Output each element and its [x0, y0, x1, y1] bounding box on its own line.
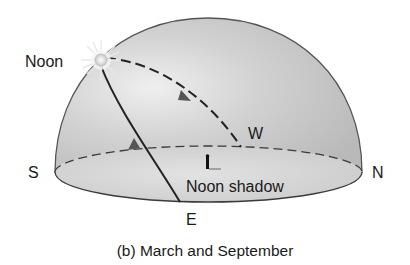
sun-icon: [81, 40, 121, 80]
noon-shadow-label: Noon shadow: [186, 178, 284, 195]
sky-dome-diagram: Noon W S N E Noon shadow (b) March and S…: [0, 0, 410, 265]
north-label: N: [372, 164, 384, 181]
east-label: E: [186, 211, 197, 228]
west-label: W: [248, 125, 264, 142]
figure-caption: (b) March and September: [117, 242, 294, 259]
south-label: S: [28, 164, 39, 181]
noon-label: Noon: [25, 53, 63, 70]
